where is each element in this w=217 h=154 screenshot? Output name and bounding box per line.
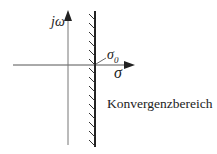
jomega-label: jω: [51, 14, 65, 30]
jomega-axis-arrowhead: [64, 10, 72, 21]
sigma-axis-arrowhead: [124, 61, 135, 69]
complex-plane-diagram: [0, 0, 217, 154]
sigma0-symbol: σ: [107, 47, 114, 62]
sigma0-leader: [96, 58, 106, 64]
sigma-label: σ: [114, 64, 122, 82]
region-of-convergence-label: Konvergenzbereich: [107, 96, 212, 112]
sigma0-label: σ0: [107, 47, 118, 65]
